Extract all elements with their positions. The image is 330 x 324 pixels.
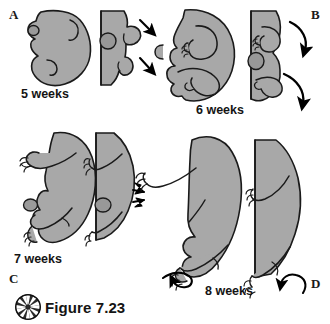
figure-caption: Figure 7.23 [14,293,125,321]
figure-caption-text: Figure 7.23 [45,300,125,315]
embryo-limb-rotation-illustration [0,0,330,324]
panel-a-embryo-frontal [100,11,141,85]
panel-b-embryo-frontal [248,11,282,101]
panel-b-embryo-lateral [155,10,234,101]
pinwheel-icon [14,293,42,321]
week-label-7-weeks: 7 weeks [14,253,62,266]
panel-d-embryo-lateral [136,137,241,290]
panel-label-b: B [311,8,320,21]
panel-label-a: A [9,8,18,21]
week-label-8-weeks: 8 weeks [205,285,253,298]
week-label-5-weeks: 5 weeks [21,88,69,101]
panel-a-arrows [140,20,151,70]
panel-c-embryo-lateral [20,132,95,246]
panel-label-c: C [9,272,18,285]
week-label-6-weeks: 6 weeks [196,104,244,117]
figure-container: A B C D 5 weeks 6 weeks 7 weeks 8 weeks [0,0,330,324]
panel-a-embryo-lateral [28,11,91,86]
panel-b-arrows [284,22,306,103]
panel-label-d: D [311,277,320,290]
